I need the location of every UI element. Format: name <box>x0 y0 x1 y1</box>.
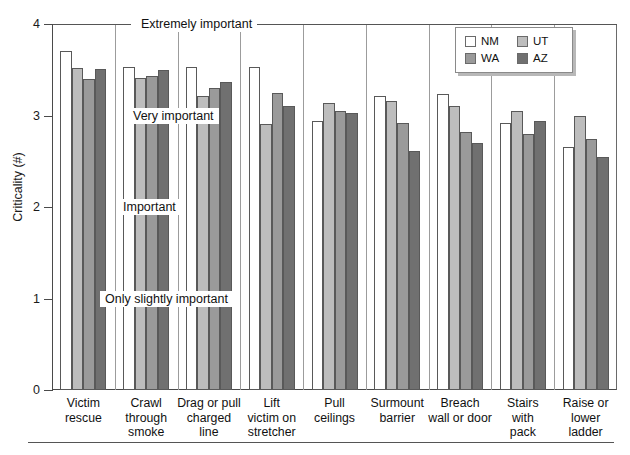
footer-rule <box>28 442 614 443</box>
bar-group <box>186 24 232 390</box>
group-separator <box>429 24 430 390</box>
annotation-label-important: Important <box>118 199 181 215</box>
bar-az-9 <box>597 157 609 390</box>
legend-entry-ut[interactable]: UT <box>517 35 548 47</box>
bar-ut-1 <box>72 68 84 390</box>
bar-nm-9 <box>563 147 575 390</box>
legend-entry-wa[interactable]: WA <box>465 52 499 64</box>
group-separator <box>366 24 367 390</box>
legend-swatch-wa-icon <box>465 53 476 64</box>
bar-chart-figure: 01234 Criticality (#) Victim rescueCrawl… <box>0 0 630 455</box>
y-axis-tick-label: 4 <box>33 17 40 31</box>
y-axis-tick-label: 3 <box>33 109 40 123</box>
bar-az-8 <box>534 121 546 390</box>
bar-ut-4 <box>260 124 272 390</box>
bar-nm-1 <box>60 51 72 390</box>
group-separator <box>240 24 241 390</box>
group-separator <box>303 24 304 390</box>
bar-wa-9 <box>586 139 598 390</box>
y-axis-tick-label: 2 <box>33 200 40 214</box>
legend-entry-nm[interactable]: NM <box>465 35 499 47</box>
legend-swatch-az-icon <box>517 53 528 64</box>
bar-az-6 <box>409 151 421 390</box>
bar-az-1 <box>95 69 107 390</box>
bar-group <box>563 24 609 390</box>
bar-wa-6 <box>397 123 409 390</box>
bar-group <box>437 24 483 390</box>
group-separator <box>554 24 555 390</box>
legend-label-ut: UT <box>533 35 548 47</box>
bar-ut-9 <box>574 116 586 391</box>
bar-az-4 <box>283 106 295 390</box>
bar-group <box>312 24 358 390</box>
bar-group <box>500 24 546 390</box>
annotation-label-only-slightly-important: Only slightly important <box>100 291 233 307</box>
bar-az-5 <box>346 113 358 390</box>
bar-nm-5 <box>312 121 324 390</box>
bar-az-7 <box>472 143 484 390</box>
bar-wa-5 <box>335 111 347 390</box>
bar-wa-8 <box>523 134 535 390</box>
bar-ut-2 <box>135 78 147 390</box>
y-axis-tick-mark <box>44 390 53 391</box>
annotation-label-extremely-important: Extremely important <box>136 16 257 32</box>
annotation-line-extremely-important-right <box>240 24 617 25</box>
bar-nm-7 <box>437 94 449 390</box>
bar-group <box>60 24 106 390</box>
bar-group <box>374 24 420 390</box>
bar-nm-8 <box>500 123 512 390</box>
group-separator <box>115 24 116 390</box>
bar-ut-6 <box>386 101 398 390</box>
x-axis-label-9: Raise or lower ladder <box>548 396 623 440</box>
group-separator <box>491 24 492 390</box>
bar-wa-3 <box>209 88 221 390</box>
y-axis-title: Criticality (#) <box>11 77 25 297</box>
bar-ut-3 <box>197 96 209 390</box>
bar-ut-7 <box>449 106 461 390</box>
legend-label-az: AZ <box>533 52 548 64</box>
bar-wa-4 <box>272 93 284 390</box>
bar-az-3 <box>220 82 232 390</box>
y-axis: 01234 <box>0 0 52 455</box>
legend-swatch-nm-icon <box>465 36 476 47</box>
legend-swatch-ut-icon <box>517 36 528 47</box>
annotation-line-extremely-important-left <box>53 24 131 25</box>
legend: NMUTWAAZ <box>455 27 573 73</box>
y-axis-tick-label: 1 <box>33 292 40 306</box>
y-axis-tick-label: 0 <box>33 383 40 397</box>
legend-label-wa: WA <box>481 52 499 64</box>
bar-wa-7 <box>460 132 472 390</box>
legend-label-nm: NM <box>481 35 499 47</box>
bar-ut-5 <box>323 103 335 390</box>
bar-nm-6 <box>374 96 386 390</box>
legend-entry-az[interactable]: AZ <box>517 52 548 64</box>
bar-nm-4 <box>249 67 261 390</box>
bar-wa-1 <box>83 79 95 390</box>
bar-ut-8 <box>511 111 523 390</box>
annotation-label-very-important: Very important <box>128 108 219 124</box>
bar-group <box>249 24 295 390</box>
